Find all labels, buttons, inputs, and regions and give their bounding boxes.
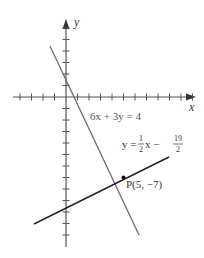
y-axis — [63, 19, 70, 247]
svg-text:x −: x − — [145, 138, 159, 150]
x-axis — [13, 94, 196, 101]
x-axis-label: x — [188, 100, 195, 114]
svg-text:2: 2 — [176, 145, 180, 154]
point-p-label: P(5, −7) — [126, 178, 162, 191]
svg-text:y =: y = — [122, 138, 136, 150]
point-p-marker — [122, 176, 126, 180]
y-axis-label: y — [73, 15, 80, 29]
coordinate-plane-figure: y x 6x + 3y = 4 y = 1 2 x − 19 2 P(5, −7… — [0, 0, 204, 258]
svg-text:19: 19 — [174, 134, 182, 143]
graph-canvas: y x 6x + 3y = 4 y = 1 2 x − 19 2 P(5, −7… — [0, 0, 204, 258]
line2-equation-label: y = 1 2 x − 19 2 — [122, 134, 183, 154]
line1-equation-label: 6x + 3y = 4 — [90, 110, 141, 122]
svg-text:2: 2 — [139, 145, 143, 154]
svg-text:1: 1 — [139, 134, 143, 143]
line-y-equals-half-x-minus-19-halves — [34, 157, 169, 224]
